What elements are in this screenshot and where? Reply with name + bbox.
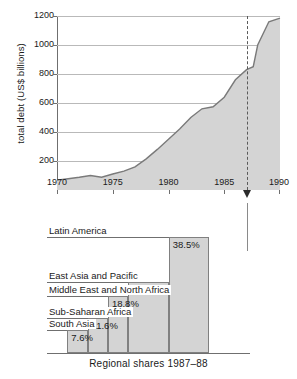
chart-caption: Regional shares 1987–88 bbox=[0, 358, 297, 369]
leader-line-middle-east-and-north-africa bbox=[47, 296, 108, 297]
regional-shares-bar-chart: 38.5% 23.5% 18.8% 11.6% 7.6% Latin Ameri… bbox=[0, 215, 297, 379]
category-label-east-asia-and-pacific: East Asia and Pacific bbox=[49, 271, 140, 281]
y-tick-1000: 1000 bbox=[20, 40, 54, 49]
bar-value-latin-america: 38.5% bbox=[173, 240, 200, 250]
x-tick-1985: 1985 bbox=[214, 178, 234, 187]
x-tick-1970: 1970 bbox=[47, 178, 67, 187]
bar-chart-baseline bbox=[47, 353, 250, 354]
total-debt-area-chart: total debt (US$ billions) 1200 1000 800 … bbox=[0, 0, 297, 215]
x-tick-1980: 1980 bbox=[158, 178, 178, 187]
leader-line-east-asia-and-pacific bbox=[47, 282, 128, 283]
y-axis-tick-labels: 1200 1000 800 600 400 200 bbox=[14, 0, 54, 200]
leader-line-south-asia bbox=[47, 330, 67, 331]
x-axis-tick-labels: 1970 1975 1980 1985 1990 bbox=[57, 0, 280, 200]
annotation-arrow-icon bbox=[243, 190, 251, 198]
x-tick-1975: 1975 bbox=[103, 178, 123, 187]
bar-latin-america[interactable]: 38.5% bbox=[169, 237, 210, 353]
category-label-middle-east-and-north-africa: Middle East and North Africa bbox=[49, 285, 171, 295]
category-label-south-asia: South Asia bbox=[49, 319, 96, 329]
y-tick-600: 600 bbox=[20, 98, 54, 107]
debt-figure: total debt (US$ billions) 1200 1000 800 … bbox=[0, 0, 297, 379]
category-label-sub-saharan-africa: Sub-Saharan Africa bbox=[49, 307, 133, 317]
y-tick-800: 800 bbox=[20, 69, 54, 78]
y-tick-200: 200 bbox=[20, 156, 54, 165]
y-tick-400: 400 bbox=[20, 127, 54, 136]
y-tick-1200: 1200 bbox=[20, 11, 54, 20]
bar-value-south-asia: 7.6% bbox=[71, 333, 93, 343]
bar-south-asia[interactable]: 7.6% bbox=[67, 330, 87, 353]
leader-line-latin-america bbox=[47, 237, 169, 238]
category-label-latin-america: Latin America bbox=[49, 226, 109, 236]
bars-container: 38.5% 23.5% 18.8% 11.6% 7.6% Latin Ameri… bbox=[47, 237, 250, 353]
x-tick-1990: 1990 bbox=[269, 178, 289, 187]
